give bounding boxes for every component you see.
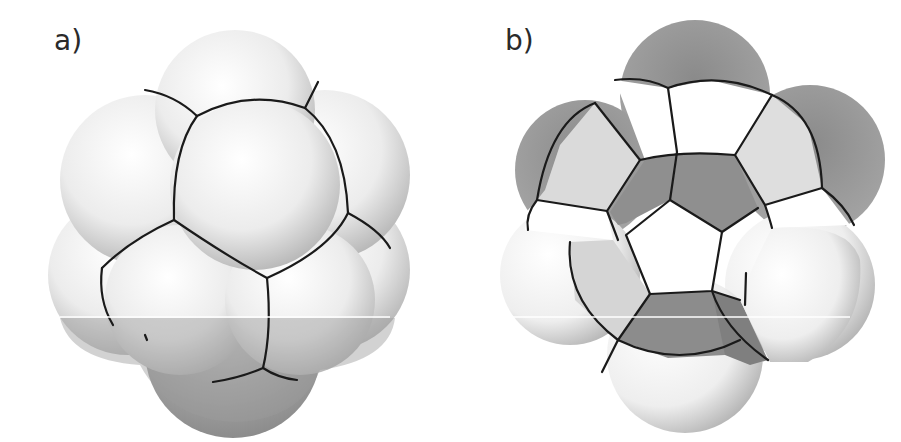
- sphere-cluster-cutaway: [450, 0, 901, 442]
- spheres: [48, 30, 410, 438]
- sphere-cluster-intact: [0, 0, 450, 442]
